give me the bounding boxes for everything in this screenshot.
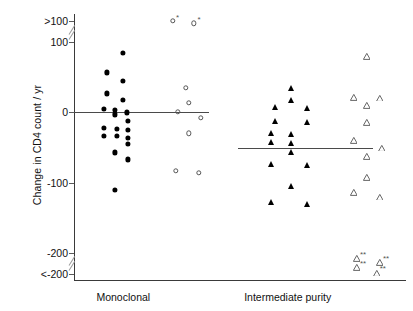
data-point-open-circle <box>186 131 191 136</box>
data-point-filled-circle <box>104 70 109 75</box>
data-point-filled-circle <box>124 110 129 115</box>
data-point-open-triangle <box>364 119 370 125</box>
data-point-filled-triangle <box>304 201 310 207</box>
data-point-open-circle <box>170 18 175 23</box>
scatter-plot-figure: Change in CD4 count / yr >1001000-100-20… <box>0 0 413 311</box>
y-tick-mark <box>69 42 74 43</box>
data-point-open-triangle <box>364 153 370 159</box>
y-tick-label: <-200 <box>41 268 68 280</box>
y-tick-label: 0 <box>62 106 68 118</box>
data-point-filled-circle <box>101 106 106 111</box>
data-point-filled-circle <box>114 126 119 131</box>
y-axis-tick-labels: >1001000-100-200<-200 <box>0 0 68 311</box>
data-point-filled-circle <box>126 118 131 123</box>
median-line <box>238 148 373 149</box>
data-point-open-triangle <box>378 145 384 151</box>
plot-area: ********** <box>74 14 406 281</box>
y-tick-mark <box>69 21 74 22</box>
data-point-filled-triangle <box>288 140 294 146</box>
data-point-filled-triangle <box>272 104 278 110</box>
data-point-filled-triangle <box>268 139 274 145</box>
data-point-open-triangle <box>350 189 356 195</box>
data-point-filled-triangle <box>268 161 274 167</box>
data-point-annotation: * <box>197 16 200 24</box>
data-point-open-circle <box>183 85 188 90</box>
data-point-annotation: ** <box>380 265 386 273</box>
y-tick-mark <box>69 274 74 275</box>
y-axis-line <box>74 14 75 281</box>
data-point-filled-circle <box>121 50 126 55</box>
data-point-open-circle <box>173 168 178 173</box>
data-point-filled-triangle <box>304 105 310 111</box>
y-tick-label: -200 <box>47 247 68 259</box>
data-point-filled-circle <box>114 134 119 139</box>
data-point-open-triangle <box>377 95 383 101</box>
axis-break-icon <box>68 25 82 38</box>
data-point-filled-circle <box>121 78 126 83</box>
y-tick-mark <box>69 253 74 254</box>
data-point-open-circle <box>186 100 191 105</box>
data-point-filled-triangle <box>288 183 294 189</box>
data-point-filled-triangle <box>304 119 310 125</box>
data-point-filled-triangle <box>288 131 294 137</box>
data-point-filled-triangle <box>268 130 274 136</box>
x-tick-label-2: Intermediate purity <box>244 291 331 303</box>
x-axis-line <box>74 280 406 281</box>
data-point-filled-circle <box>126 127 131 132</box>
data-point-annotation: * <box>176 14 179 22</box>
y-tick-mark <box>69 183 74 184</box>
data-point-filled-triangle <box>272 118 278 124</box>
data-point-open-circle <box>175 109 180 114</box>
data-point-open-triangle <box>350 137 356 143</box>
data-point-filled-triangle <box>288 97 294 103</box>
data-point-filled-circle <box>121 97 126 102</box>
data-point-open-triangle <box>350 94 356 100</box>
data-point-open-triangle <box>373 270 379 276</box>
data-point-filled-circle <box>126 135 131 140</box>
data-point-open-triangle <box>364 174 370 180</box>
data-point-filled-circle <box>112 150 117 155</box>
data-point-open-circle <box>196 170 201 175</box>
data-point-filled-circle <box>126 157 131 162</box>
data-point-annotation: ** <box>383 255 389 263</box>
data-point-annotation: ** <box>360 251 366 259</box>
data-point-filled-circle <box>112 187 117 192</box>
data-point-filled-circle <box>101 125 106 130</box>
data-point-open-triangle <box>364 53 370 59</box>
data-point-open-triangle <box>354 255 360 261</box>
x-tick-label-1: Monoclonal <box>96 291 150 303</box>
data-point-filled-circle <box>112 112 117 117</box>
y-tick-label: >100 <box>44 15 68 27</box>
data-point-filled-circle <box>104 91 109 96</box>
data-point-filled-triangle <box>288 149 294 155</box>
y-tick-label: 100 <box>50 36 68 48</box>
axis-break-icon <box>68 256 82 269</box>
data-point-filled-triangle <box>288 85 294 91</box>
data-point-filled-triangle <box>304 162 310 168</box>
data-point-open-circle <box>198 115 203 120</box>
data-point-filled-circle <box>101 133 106 138</box>
data-point-open-triangle <box>354 264 360 270</box>
data-point-annotation: ** <box>360 260 366 268</box>
data-point-open-circle <box>191 20 196 25</box>
data-point-open-triangle <box>364 102 370 108</box>
data-point-filled-circle <box>126 141 131 146</box>
y-tick-label: -100 <box>47 177 68 189</box>
median-line <box>74 112 209 113</box>
data-point-open-triangle <box>377 194 383 200</box>
data-point-filled-triangle <box>268 199 274 205</box>
